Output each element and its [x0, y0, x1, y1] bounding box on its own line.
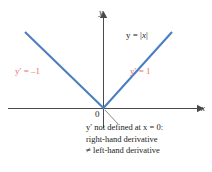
caption-line-2: right-hand derivative: [86, 134, 163, 146]
caption-line-3-text: left-hand derivative: [91, 145, 160, 155]
figure-absolute-value-derivative: y x 0 y = |x| y′ = –1 y′ = 1 y′ not defi…: [0, 0, 212, 172]
slope-label-left-branch: y′ = –1: [15, 67, 40, 76]
caption-line-3: ≠ left-hand derivative: [86, 145, 163, 157]
caption-block: y′ not defined at x = 0: right-hand deri…: [86, 122, 163, 157]
origin-label: 0: [95, 110, 100, 119]
slope-label-right-branch: y′ = 1: [130, 67, 151, 76]
y-axis-label: y: [99, 8, 103, 17]
x-axis-label: x: [201, 104, 205, 113]
curve-equation-label: y = |x|: [126, 31, 148, 40]
curve-equation-prefix: y =: [126, 30, 140, 40]
abs-bar-right-icon: |: [146, 31, 148, 40]
caption-line-1: y′ not defined at x = 0:: [86, 122, 163, 134]
